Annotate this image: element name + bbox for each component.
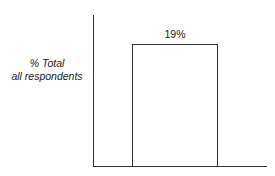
y-axis-label-line-1: % Total	[6, 57, 88, 70]
y-axis-label-line-2: all respondents	[6, 70, 88, 83]
bar-chart: % Total all respondents 19%	[0, 0, 275, 176]
y-axis-line	[93, 15, 94, 167]
x-axis-line	[93, 166, 267, 167]
bar	[132, 44, 218, 166]
bar-value-label: 19%	[132, 28, 218, 40]
y-axis-label: % Total all respondents	[6, 57, 88, 83]
